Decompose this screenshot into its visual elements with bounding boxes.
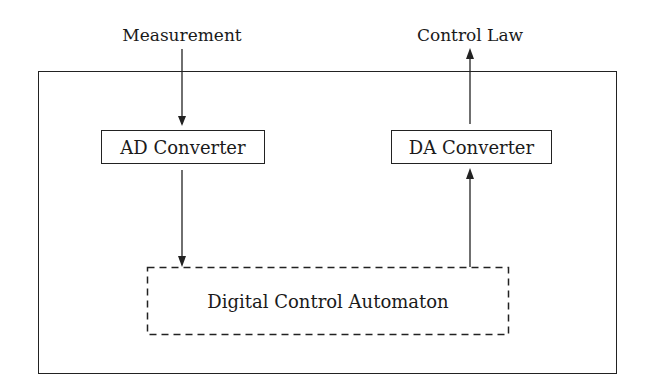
da-converter-label: DA Converter xyxy=(409,137,534,158)
control-law-label: Control Law xyxy=(400,25,540,45)
ad-converter-label: AD Converter xyxy=(120,137,245,158)
da-converter-block: DA Converter xyxy=(391,130,552,164)
measurement-label: Measurement xyxy=(112,25,252,45)
digital-control-automaton-block: Digital Control Automaton xyxy=(148,268,508,334)
automaton-label: Digital Control Automaton xyxy=(207,291,448,312)
ad-converter-block: AD Converter xyxy=(101,130,265,164)
